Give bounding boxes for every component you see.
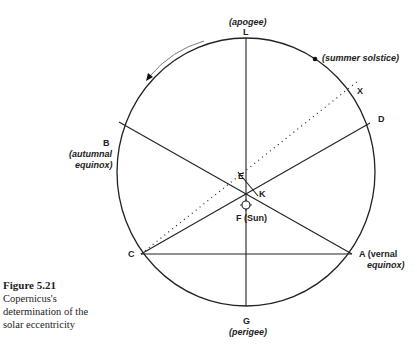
label-D: D [378,114,385,124]
label-perigee: (perigee) [229,327,267,337]
label-apogee: (apogee) [229,17,267,27]
label-F-sun-text: F (Sun) [236,213,267,223]
caption-line-1: Copernicus's [3,292,88,305]
label-E: E [238,171,244,181]
label-L: L [243,27,249,37]
summer-solstice-dot [313,57,318,62]
label-X: X [357,86,363,96]
label-summer-solstice: (summer solstice) [322,53,399,63]
label-A-vernal: A (vernal [359,249,397,259]
dotted-line-CX [141,81,358,254]
label-C: C [128,249,135,259]
line-BA [119,122,352,254]
label-autumnal: (autumnal [69,149,112,159]
label-F-sun: F (Sun) [236,213,267,223]
label-K: K [259,189,266,199]
label-G: G [243,316,250,326]
label-B: B [103,138,110,148]
caption-line-2: determination of the [3,305,88,318]
caption-title: Figure 5.21 [3,279,88,292]
caption-line-3: solar eccentricity [3,318,88,331]
label-equinox-b: equinox) [75,160,113,170]
sun-icon [242,201,250,209]
figure-caption: Figure 5.21 Copernicus's determination o… [3,279,88,331]
line-CD [141,123,370,254]
label-equinox-a: equinox) [367,260,405,270]
